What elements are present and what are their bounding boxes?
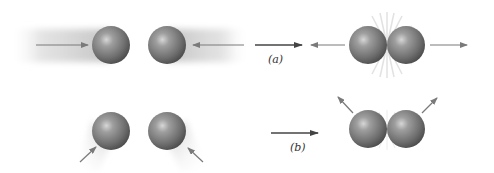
panel-a-before xyxy=(10,26,248,64)
ball-2 xyxy=(387,26,425,64)
ball-1 xyxy=(349,110,387,148)
velocity-arrow-icon xyxy=(422,98,437,113)
panel-b-label: (b) xyxy=(290,141,306,154)
ball-2 xyxy=(148,26,186,64)
panel-b-after xyxy=(338,97,437,150)
ball-1 xyxy=(92,112,130,150)
ball-2 xyxy=(387,110,425,148)
ball-2 xyxy=(148,112,186,150)
panel-b-before xyxy=(78,112,205,172)
collision-diagram: (a) (b) xyxy=(0,0,494,173)
velocity-arrow-icon xyxy=(338,97,353,113)
panel-a-after xyxy=(311,12,467,78)
ball-1 xyxy=(92,26,130,64)
ball-1 xyxy=(349,26,387,64)
panel-a-label: (a) xyxy=(268,53,283,66)
diagram-canvas xyxy=(0,0,494,173)
